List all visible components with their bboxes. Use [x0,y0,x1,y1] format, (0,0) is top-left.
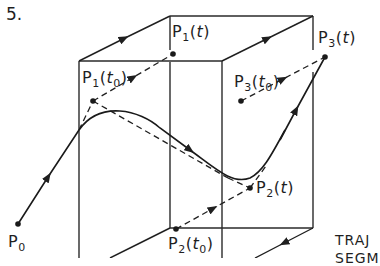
figure-number: 5. [6,4,22,24]
point-p2-t0 [173,226,179,232]
point-p3-t0 [238,98,244,104]
point-p2-t [247,185,253,191]
point-p0 [15,221,21,227]
point-p1-t0 [90,98,96,104]
label-p1-t: P1(t) [172,24,210,40]
point-p3-t [322,54,328,60]
caption-line-2: SEGM [335,250,380,266]
caption-line-1: TRAJ [335,232,370,248]
points [15,51,328,232]
label-p3-t0: P3(t0) [234,74,279,90]
point-p1-t [170,51,176,57]
label-p3-t: P3(t) [318,30,356,46]
label-p1-t0: P1(t0) [82,70,127,86]
time-axis-edges [79,16,313,258]
label-p2-t0: P2(t0) [168,236,213,252]
label-p2-t: P2(t) [256,180,294,196]
label-p0: P0 [8,234,26,250]
box-wireframe [79,16,313,258]
